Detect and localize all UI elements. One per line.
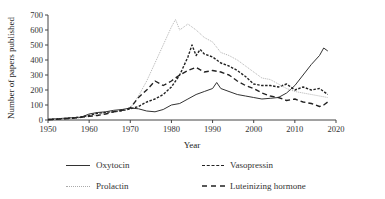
y-tick-label: 300 (30, 70, 43, 80)
x-tick-label: 1950 (40, 124, 57, 134)
y-axis-title: Number of papers published (6, 16, 16, 119)
series-prolactin (48, 20, 328, 120)
y-tick-label: 200 (30, 85, 43, 95)
y-tick-label: 500 (30, 40, 43, 50)
legend-item-vasopressin: Vasopressin (202, 160, 273, 170)
legend-swatch-fine-dashed (202, 165, 224, 166)
x-tick-label: 1970 (122, 124, 139, 134)
legend-label: Oxytocin (96, 160, 130, 170)
legend-label: Vasopressin (230, 160, 273, 170)
legend-label: Prolactin (96, 181, 129, 191)
axes (48, 15, 336, 120)
x-axis-title: Year (184, 140, 201, 150)
legend-label: Luteinizing hormone (230, 181, 306, 191)
ticks: 0100200300400500600700195019601970198019… (30, 10, 344, 134)
x-tick-label: 1960 (81, 124, 98, 134)
x-tick-label: 1980 (163, 124, 180, 134)
legend-item-oxytocin: Oxytocin (66, 160, 130, 170)
legend-swatch-long-dashed (202, 184, 226, 188)
series-vasopressin (48, 45, 328, 120)
legend-item-luteinizing-hormone: Luteinizing hormone (202, 181, 306, 191)
legend-swatch-solid (66, 165, 90, 166)
x-tick-label: 2000 (245, 124, 262, 134)
legend-item-prolactin: Prolactin (66, 181, 129, 191)
x-tick-label: 1990 (204, 124, 221, 134)
y-tick-label: 700 (30, 10, 43, 20)
y-axis-title-group: Number of papers published (6, 16, 16, 119)
y-tick-label: 600 (30, 25, 43, 35)
y-tick-label: 400 (30, 55, 43, 65)
line-chart: Number of papers published Year 01002003… (0, 0, 385, 199)
series-lines (48, 20, 328, 120)
legend-swatch-dotted (66, 186, 90, 187)
x-tick-label: 2010 (286, 124, 303, 134)
x-tick-label: 2020 (328, 124, 345, 134)
y-tick-label: 100 (30, 100, 43, 110)
